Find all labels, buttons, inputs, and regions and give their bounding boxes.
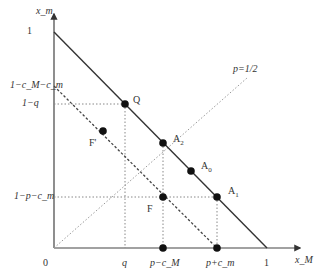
label-A1-sub: 1: [235, 191, 239, 199]
label-Q: Q: [133, 95, 140, 105]
y-tick-1-p-cm: 1−p−c_m: [14, 191, 54, 201]
x-tick-q: q: [122, 258, 127, 268]
x-tick-one: 1: [264, 258, 269, 268]
label-A0: A0: [201, 161, 212, 174]
label-A1: A1: [228, 186, 239, 199]
point-Q: [121, 100, 129, 108]
y-tick-1-q: 1−q: [22, 98, 39, 108]
dashed-line: [54, 86, 217, 248]
x-axis-label: x_M: [295, 255, 313, 265]
point-F: [159, 193, 167, 201]
label-A2-sub: 2: [180, 139, 184, 147]
x-tick-p-cM: p−c_M: [150, 258, 180, 268]
point-A1: [213, 193, 221, 201]
point-A2: [159, 139, 167, 147]
label-A0-sub: 0: [208, 166, 212, 174]
point-x-p-plus-cm: [213, 244, 221, 252]
y-tick-one: 1: [27, 26, 32, 36]
y-tick-1-cM-cm: 1−c_M−c_m: [10, 80, 63, 90]
y-axis-label: x_m: [36, 6, 53, 16]
point-F-prime: [99, 127, 107, 135]
point-x-p-minus-cM: [159, 244, 167, 252]
label-A2: A2: [173, 134, 184, 147]
label-F: F: [147, 204, 153, 214]
label-F-prime: F': [89, 138, 96, 148]
point-A0: [187, 167, 195, 175]
diagram-canvas: [0, 0, 321, 277]
origin-label: 0: [43, 258, 48, 268]
x-tick-p-cm: p+c_m: [206, 258, 234, 268]
p-half-label: p=1/2: [233, 64, 258, 74]
